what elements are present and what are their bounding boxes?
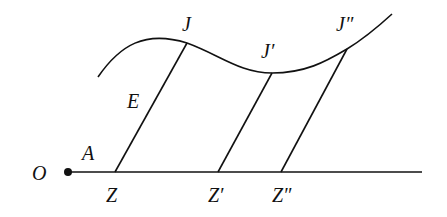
label-Z: Z: [106, 184, 118, 206]
label-O: O: [32, 162, 46, 184]
label-A: A: [80, 142, 95, 164]
origin-point: [64, 168, 72, 176]
segment-Z1J1: [218, 73, 272, 172]
label-J-prime: J′: [261, 40, 275, 62]
label-Z-double-prime: Z″: [272, 184, 292, 206]
label-J-double-prime: J″: [336, 13, 354, 35]
diagram-svg: O A E Z Z′ Z″ J J′ J″: [0, 0, 447, 217]
label-Z-prime: Z′: [208, 184, 224, 206]
label-E: E: [126, 90, 139, 112]
segment-ZJ: [115, 43, 187, 172]
segment-Z2J2: [281, 49, 347, 172]
diagram-canvas: O A E Z Z′ Z″ J J′ J″: [0, 0, 447, 217]
label-J: J: [182, 13, 192, 35]
